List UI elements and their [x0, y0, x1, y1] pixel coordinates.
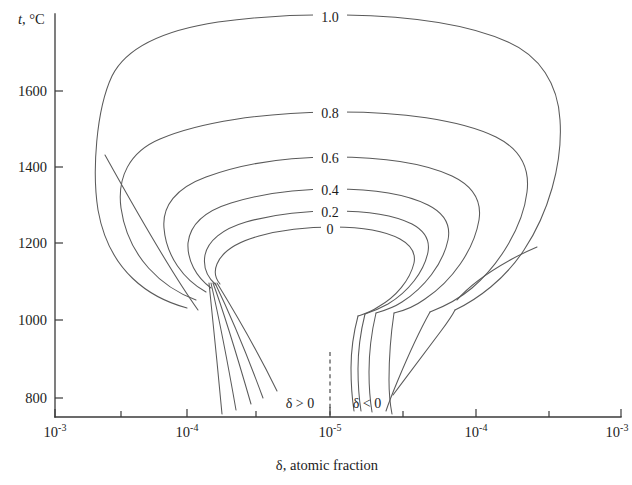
- contour-label-0: 0: [327, 222, 334, 237]
- contour-label-group: 1.0 0.8 0.6 0.4 0.2 0: [313, 8, 347, 237]
- x-axis-title: δ, atomic fraction: [276, 457, 379, 473]
- x-tick-label-1: 10-3: [44, 422, 67, 440]
- y-axis-ticks: [55, 91, 63, 398]
- y-tick-label-1000: 1000: [18, 312, 47, 328]
- leg-right-shoulder: [457, 247, 537, 300]
- x-tick-base-5: 10: [606, 424, 621, 440]
- leg-left-4: [215, 283, 263, 398]
- leg-left-5: [217, 283, 277, 391]
- x-tick-exp-5: -3: [620, 422, 628, 433]
- region-label-delta-negative: δ < 0: [353, 396, 382, 411]
- contour-label-0_6: 0.6: [321, 151, 339, 166]
- x-axis-title-rest: , atomic fraction: [283, 457, 379, 473]
- leg-right-2: [389, 313, 394, 414]
- contour-label-0_2: 0.2: [321, 205, 339, 220]
- contour-label-0_4: 0.4: [321, 183, 339, 198]
- plot-svg: 1.0 0.8 0.6 0.4 0.2 0 1600 1400 1200 100…: [0, 0, 632, 485]
- contour-label-0_8: 0.8: [321, 106, 339, 121]
- x-tick-base-3: 10: [319, 424, 334, 440]
- leg-left-outer-shoulder: [105, 155, 198, 310]
- x-axis-ticks: [55, 407, 621, 417]
- y-axis-title: t, °C: [18, 11, 45, 27]
- right-legs-group: [351, 247, 537, 414]
- contour-plot-figure: 1.0 0.8 0.6 0.4 0.2 0 1600 1400 1200 100…: [0, 0, 632, 485]
- contour-curve-0: [215, 227, 414, 316]
- x-tick-exp-1: -3: [58, 422, 66, 433]
- contour-curve-0_2: [204, 211, 428, 314]
- x-tick-label-5: 10-3: [606, 422, 629, 440]
- x-tick-label-3: 10-5: [319, 422, 342, 440]
- contour-label-1_0: 1.0: [321, 10, 339, 25]
- y-tick-label-800: 800: [25, 390, 47, 406]
- x-tick-base-2: 10: [176, 424, 191, 440]
- x-tick-base-1: 10: [44, 424, 59, 440]
- y-tick-label-1200: 1200: [18, 235, 47, 251]
- x-tick-labels: 10-3 10-4 10-5 10-4 10-3: [44, 422, 629, 440]
- x-tick-exp-2: -4: [190, 422, 198, 433]
- y-tick-labels: 1600 1400 1200 1000 800: [18, 83, 47, 406]
- x-tick-label-4: 10-4: [465, 422, 488, 440]
- x-tick-exp-3: -5: [333, 422, 341, 433]
- region-label-delta-positive: δ > 0: [286, 396, 315, 411]
- y-axis-title-unit: , °C: [22, 11, 45, 27]
- x-tick-base-4: 10: [465, 424, 480, 440]
- left-legs-group: [105, 155, 277, 414]
- x-tick-label-2: 10-4: [176, 422, 199, 440]
- y-tick-label-1600: 1600: [18, 83, 47, 99]
- y-tick-label-1400: 1400: [18, 159, 47, 175]
- x-tick-exp-4: -4: [479, 422, 487, 433]
